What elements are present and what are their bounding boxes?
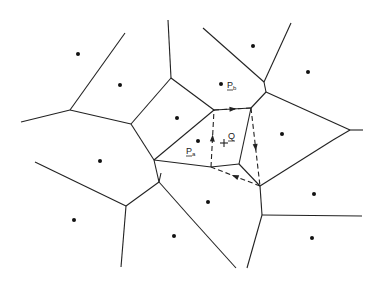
- walk-arrow-icon: [253, 144, 259, 152]
- voronoi-edge: [159, 173, 161, 182]
- voronoi-edge: [239, 164, 260, 186]
- site-point: [76, 52, 80, 56]
- voronoi-edge: [190, 217, 236, 268]
- walk-arrow-icon: [229, 106, 236, 111]
- voronoi-edge: [21, 110, 70, 122]
- site-point: [280, 132, 284, 136]
- voronoi-edge: [35, 162, 126, 206]
- voronoi-edge: [121, 206, 126, 267]
- site-point: [312, 192, 316, 196]
- voronoi-edge: [159, 182, 190, 217]
- voronoi-edge: [203, 28, 264, 82]
- query-label: Q: [228, 131, 235, 141]
- walk-arrow-icon: [231, 173, 239, 180]
- query-point: [220, 139, 228, 147]
- site-point: [118, 83, 122, 87]
- voronoi-edge: [266, 92, 350, 130]
- voronoi-edge: [126, 182, 159, 206]
- site-point: [196, 139, 200, 143]
- voronoi-edge: [260, 186, 262, 215]
- voronoi-edge: [154, 110, 214, 160]
- voronoi-edge: [264, 23, 291, 82]
- site-point: [251, 44, 255, 48]
- voronoi-edge: [247, 215, 262, 268]
- voronoi-edge: [70, 33, 125, 110]
- site-point: [206, 200, 210, 204]
- site-b-subscript: b: [233, 85, 237, 91]
- voronoi-edge: [333, 130, 350, 140]
- labels: Q P a P b: [186, 80, 237, 157]
- voronoi-edge: [211, 164, 239, 167]
- voronoi-edge: [264, 82, 266, 92]
- voronoi-sites: [72, 44, 316, 240]
- voronoi-edge: [260, 140, 333, 186]
- voronoi-edge: [70, 110, 131, 124]
- voronoi-edge: [154, 160, 159, 182]
- voronoi-edge: [239, 108, 251, 164]
- site-point: [72, 218, 76, 222]
- walk-path: [210, 106, 260, 186]
- site-point: [175, 116, 179, 120]
- site-a-subscript: a: [192, 151, 196, 157]
- voronoi-diagram: Q P a P b: [0, 0, 378, 285]
- site-point: [306, 70, 310, 74]
- site-point: [172, 234, 176, 238]
- site-point: [310, 236, 314, 240]
- walk-arrow-icon: [210, 134, 215, 141]
- site-point: [219, 82, 223, 86]
- voronoi-edge: [251, 92, 266, 108]
- voronoi-edge: [168, 20, 171, 78]
- voronoi-edge: [154, 160, 211, 167]
- voronoi-edge: [131, 124, 154, 160]
- voronoi-edge: [131, 78, 171, 124]
- voronoi-edges: [21, 20, 363, 268]
- voronoi-edge: [171, 78, 214, 110]
- voronoi-edge: [262, 215, 362, 216]
- site-point: [98, 159, 102, 163]
